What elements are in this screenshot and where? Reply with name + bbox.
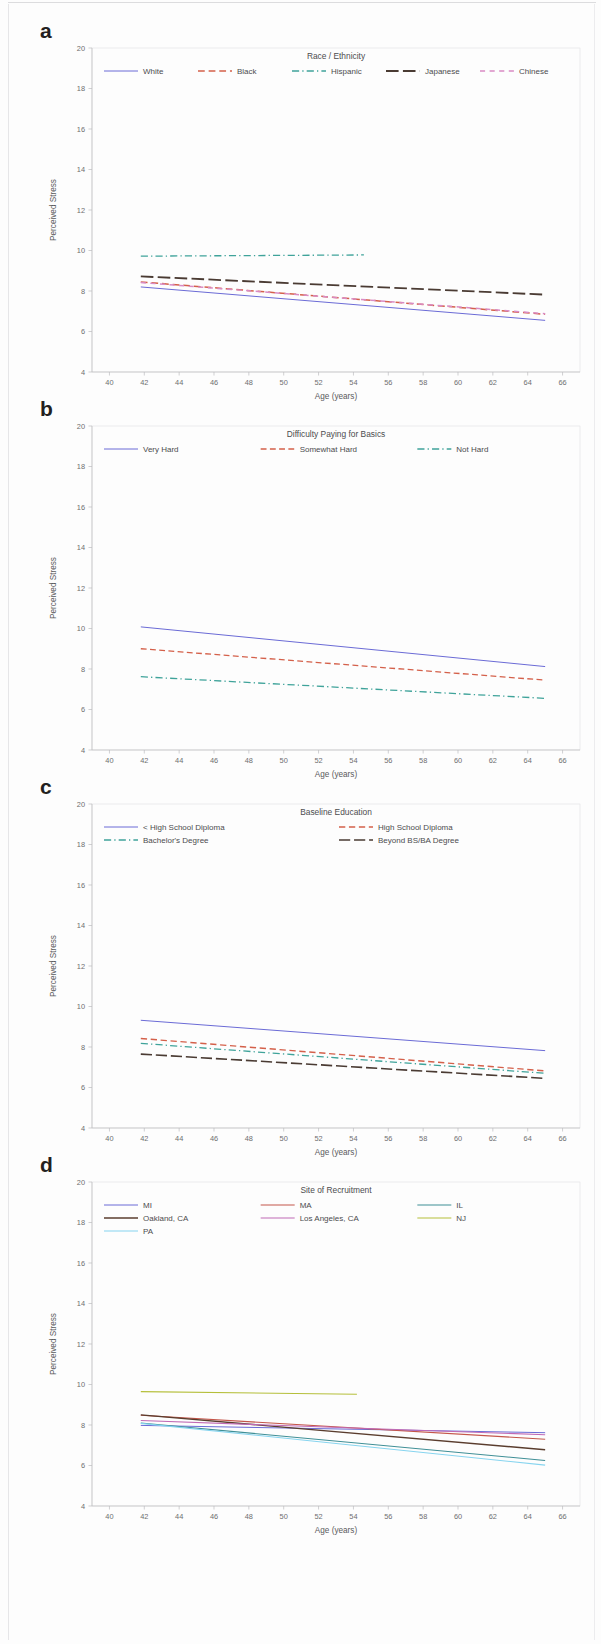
y-tick-label: 6 xyxy=(81,705,85,714)
panel-letter-c: c xyxy=(40,775,52,798)
y-axis-title: Perceived Stress xyxy=(49,179,58,241)
y-axis-title: Perceived Stress xyxy=(49,557,58,619)
legend-label: Black xyxy=(237,67,258,76)
x-tick-label: 52 xyxy=(314,1512,322,1521)
y-tick-label: 10 xyxy=(77,1380,85,1389)
legend-label: High School Diploma xyxy=(378,823,453,832)
plot-frame xyxy=(92,426,580,750)
y-tick-label: 10 xyxy=(77,1002,85,1011)
legend-label: NJ xyxy=(456,1214,466,1223)
legend-item: MI xyxy=(104,1201,152,1210)
data-line xyxy=(141,1020,545,1050)
panel-a: a468101214161820404244464850525456586062… xyxy=(0,0,601,411)
x-tick-label: 48 xyxy=(245,1512,253,1521)
y-tick-label: 20 xyxy=(77,1178,85,1187)
panel-letter-a: a xyxy=(40,19,52,42)
legend-item: Japanese xyxy=(386,67,460,76)
y-tick-label: 12 xyxy=(77,206,85,215)
y-tick-label: 12 xyxy=(77,584,85,593)
legend-label: Beyond BS/BA Degree xyxy=(378,836,459,845)
y-tick-label: 8 xyxy=(81,287,85,296)
y-tick-label: 6 xyxy=(81,327,85,336)
y-tick-label: 16 xyxy=(77,881,85,890)
plot-frame xyxy=(92,804,580,1128)
y-tick-label: 18 xyxy=(77,462,85,471)
legend-item: High School Diploma xyxy=(339,823,453,832)
panel-letter-b: b xyxy=(40,397,53,420)
data-line xyxy=(141,255,364,256)
y-tick-label: 20 xyxy=(77,422,85,431)
y-tick-label: 8 xyxy=(81,1043,85,1052)
y-tick-label: 8 xyxy=(81,1421,85,1430)
panel-letter-d: d xyxy=(40,1153,53,1176)
legend-item: Beyond BS/BA Degree xyxy=(339,836,459,845)
y-tick-label: 4 xyxy=(81,1502,85,1511)
y-axis-title: Perceived Stress xyxy=(49,1313,58,1375)
legend-title: Difficulty Paying for Basics xyxy=(287,429,386,439)
y-tick-label: 4 xyxy=(81,368,85,377)
legend-label: Bachelor's Degree xyxy=(143,836,209,845)
legend-item: Somewhat Hard xyxy=(261,445,357,454)
legend-label: Chinese xyxy=(519,67,549,76)
panel-d: d468101214161820404244464850525456586062… xyxy=(0,1134,601,1545)
legend-label: Very Hard xyxy=(143,445,179,454)
y-tick-label: 10 xyxy=(77,624,85,633)
legend-label: IL xyxy=(456,1201,463,1210)
y-tick-label: 20 xyxy=(77,800,85,809)
y-tick-label: 12 xyxy=(77,962,85,971)
x-tick-label: 62 xyxy=(489,1512,497,1521)
legend-item: White xyxy=(104,67,164,76)
y-tick-label: 16 xyxy=(77,1259,85,1268)
x-tick-label: 40 xyxy=(105,1512,113,1521)
legend-item: < High School Diploma xyxy=(104,823,225,832)
x-tick-label: 64 xyxy=(524,1512,532,1521)
legend-label: < High School Diploma xyxy=(143,823,225,832)
y-tick-label: 16 xyxy=(77,503,85,512)
legend-label: Not Hard xyxy=(456,445,488,454)
y-tick-label: 18 xyxy=(77,1218,85,1227)
legend-label: PA xyxy=(143,1227,154,1236)
legend-item: IL xyxy=(417,1201,463,1210)
x-tick-label: 66 xyxy=(558,1512,566,1521)
y-tick-label: 4 xyxy=(81,746,85,755)
panel-b: b468101214161820404244464850525456586062… xyxy=(0,378,601,789)
data-line xyxy=(141,649,545,680)
legend-title: Baseline Education xyxy=(300,807,372,817)
data-line xyxy=(141,1054,545,1078)
y-tick-label: 14 xyxy=(77,921,85,930)
y-tick-label: 14 xyxy=(77,543,85,552)
legend-title: Site of Recruitment xyxy=(300,1185,372,1195)
plot-frame xyxy=(92,48,580,372)
x-tick-label: 46 xyxy=(210,1512,218,1521)
chart-a: a468101214161820404244464850525456586062… xyxy=(0,0,601,411)
legend-title: Race / Ethnicity xyxy=(307,51,366,61)
legend-item: Hispanic xyxy=(292,67,362,76)
x-tick-label: 60 xyxy=(454,1512,462,1521)
legend-item: Los Angeles, CA xyxy=(261,1214,360,1223)
figure-root: a468101214161820404244464850525456586062… xyxy=(0,0,601,1644)
x-tick-label: 56 xyxy=(384,1512,392,1521)
legend-item: NJ xyxy=(417,1214,466,1223)
y-tick-label: 20 xyxy=(77,44,85,53)
x-axis-title: Age (years) xyxy=(315,1526,358,1535)
legend-label: Somewhat Hard xyxy=(300,445,357,454)
legend-label: Japanese xyxy=(425,67,460,76)
legend-label: Oakland, CA xyxy=(143,1214,189,1223)
y-tick-label: 16 xyxy=(77,125,85,134)
x-tick-label: 44 xyxy=(175,1512,183,1521)
y-tick-label: 4 xyxy=(81,1124,85,1133)
y-tick-label: 12 xyxy=(77,1340,85,1349)
y-tick-label: 6 xyxy=(81,1083,85,1092)
y-axis-title: Perceived Stress xyxy=(49,935,58,997)
panel-c: c468101214161820404244464850525456586062… xyxy=(0,756,601,1167)
x-tick-label: 54 xyxy=(349,1512,357,1521)
data-line xyxy=(141,677,545,699)
chart-d: d468101214161820404244464850525456586062… xyxy=(0,1134,601,1545)
y-tick-label: 6 xyxy=(81,1461,85,1470)
legend-label: Los Angeles, CA xyxy=(300,1214,360,1223)
chart-c: c468101214161820404244464850525456586062… xyxy=(0,756,601,1167)
legend-item: Chinese xyxy=(480,67,549,76)
y-tick-label: 10 xyxy=(77,246,85,255)
legend-item: Oakland, CA xyxy=(104,1214,189,1223)
legend-item: Very Hard xyxy=(104,445,179,454)
